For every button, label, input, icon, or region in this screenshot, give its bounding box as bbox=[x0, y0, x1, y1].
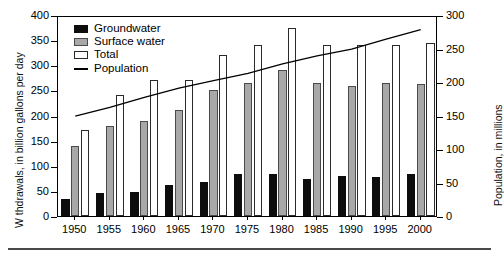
bottom-rule bbox=[8, 248, 491, 250]
x-tick-label: 2000 bbox=[400, 223, 440, 235]
right-tick-label: 150 bbox=[446, 110, 476, 122]
left-tick-mark bbox=[51, 217, 57, 218]
left-tick-label: 0 bbox=[19, 210, 49, 222]
right-tick-label: 100 bbox=[446, 143, 476, 155]
left-tick-label: 50 bbox=[19, 185, 49, 197]
legend-label: Surface water bbox=[94, 35, 165, 48]
left-tick-label: 300 bbox=[19, 59, 49, 71]
left-tick-label: 200 bbox=[19, 110, 49, 122]
legend-swatch-line-segment-icon bbox=[74, 64, 88, 72]
right-tick-label: 200 bbox=[446, 76, 476, 88]
right-tick-label: 250 bbox=[446, 43, 476, 55]
legend-label: Groundwater bbox=[94, 22, 160, 35]
right-tick-label: 300 bbox=[446, 9, 476, 21]
legend-label: Population bbox=[94, 62, 148, 75]
chart-legend: GroundwaterSurface waterTotalPopulation bbox=[74, 22, 165, 75]
legend-swatch-open-square-icon bbox=[74, 51, 88, 59]
legend-item-groundwater: Groundwater bbox=[74, 22, 165, 35]
legend-label: Total bbox=[94, 48, 118, 61]
legend-item-surface-water: Surface water bbox=[74, 35, 165, 48]
left-tick-label: 250 bbox=[19, 84, 49, 96]
right-tick-label: 50 bbox=[446, 177, 476, 189]
left-tick-label: 350 bbox=[19, 34, 49, 46]
right-tick-label: 0 bbox=[446, 210, 476, 222]
right-axis-title: Population, in millions bbox=[492, 104, 504, 206]
legend-swatch-filled-gray-square-icon bbox=[74, 38, 88, 46]
left-tick-label: 150 bbox=[19, 135, 49, 147]
legend-item-total: Total bbox=[74, 48, 165, 61]
left-tick-label: 400 bbox=[19, 9, 49, 21]
legend-item-population: Population bbox=[74, 62, 165, 75]
legend-swatch-filled-black-square-icon bbox=[74, 25, 88, 33]
left-tick-label: 100 bbox=[19, 160, 49, 172]
